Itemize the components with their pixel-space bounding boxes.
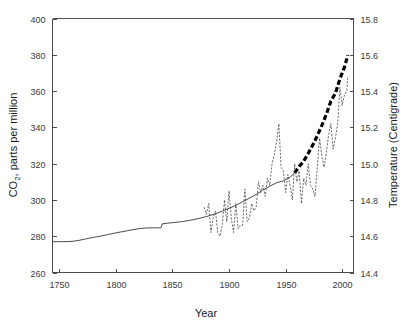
x-axis-title: Year (195, 307, 218, 319)
y-tick-label: 340 (30, 123, 45, 133)
y-tick-label: 320 (30, 160, 45, 170)
x-tick-label: 1750 (49, 280, 69, 290)
y2-tick-label: 15.8 (361, 15, 379, 25)
climate-chart-figure: 260280300320340360380400 14.414.614.815.… (0, 0, 412, 329)
y-tick-label: 400 (30, 15, 45, 25)
y2-tick-label: 15.6 (361, 51, 379, 61)
x-tick-label: 1800 (106, 280, 126, 290)
y2-tick-label: 14.8 (361, 196, 379, 206)
y-tick-label: 280 (30, 232, 45, 242)
x-tick-label: 1900 (219, 280, 239, 290)
x-tick-label: 1950 (276, 280, 296, 290)
x-tick-label: 1850 (162, 280, 182, 290)
y2-tick-label: 14.6 (361, 232, 379, 242)
y-axis-title-pre: CO (7, 180, 19, 197)
y2-tick-label: 15.2 (361, 123, 379, 133)
y2-tick-label: 15.4 (361, 87, 379, 97)
y2-tick-label: 15.0 (361, 160, 379, 170)
x-tick-label: 2000 (332, 280, 352, 290)
chart-svg: 260280300320340360380400 14.414.614.815.… (0, 0, 412, 329)
y-tick-label: 360 (30, 87, 45, 97)
y2-axis-title: Temperature (Centigrade) (387, 82, 399, 208)
y-tick-label: 300 (30, 196, 45, 206)
y-tick-label: 260 (30, 269, 45, 279)
y2-tick-label: 14.4 (361, 269, 379, 279)
y-tick-label: 380 (30, 51, 45, 61)
y-axis-title-post: , parts per million (7, 93, 19, 177)
